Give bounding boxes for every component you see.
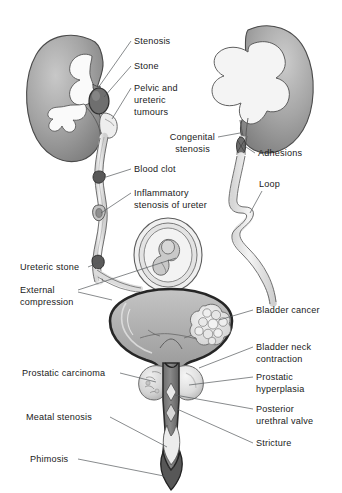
blood-clot-mass	[93, 171, 105, 183]
leader-congenital-stenosis	[218, 133, 240, 137]
leader-stone	[104, 66, 131, 97]
ureteric-stone-mass	[92, 255, 104, 269]
label-pelvic-ureteric-tumours-line3: tumours	[134, 107, 168, 117]
leader-external-compression-b	[78, 292, 112, 300]
gravid-uterus	[134, 218, 202, 292]
bladder	[110, 289, 232, 370]
urinary-obstruction-figure: StenosisStonePelvic andureterictumoursCo…	[0, 0, 342, 493]
label-external-compression-line2: compression	[20, 297, 74, 307]
kidney-stone	[89, 88, 109, 114]
right-ureter	[229, 136, 276, 304]
anatomy-illustration: StenosisStonePelvic andureterictumoursCo…	[0, 0, 342, 493]
label-blood-clot: Blood clot	[134, 164, 176, 174]
leader-loop	[250, 191, 262, 213]
label-meatal-stenosis: Meatal stenosis	[26, 412, 92, 422]
label-external-compression-line1: External	[20, 285, 55, 295]
label-posterior-urethral-valve-line2: urethral valve	[256, 416, 313, 426]
leader-meatal-stenosis	[110, 417, 167, 447]
label-phimosis: Phimosis	[30, 454, 69, 464]
label-inflammatory-stenosis-line1: Inflammatory	[134, 188, 189, 198]
label-posterior-urethral-valve-line1: Posterior	[256, 404, 294, 414]
label-ureteric-stone: Ureteric stone	[20, 262, 79, 272]
leader-blood-clot	[106, 169, 131, 177]
label-prostatic-carcinoma: Prostatic carcinoma	[22, 368, 106, 378]
label-congenital-stenosis-line2: stenosis	[175, 144, 210, 154]
urethra	[161, 363, 183, 490]
label-inflammatory-stenosis-line2: stenosis of ureter	[134, 200, 207, 210]
label-stone: Stone	[134, 61, 159, 71]
label-stricture: Stricture	[256, 438, 292, 448]
label-pelvic-ureteric-tumours-line1: Pelvic and	[134, 83, 178, 93]
label-bladder-neck-contraction-line1: Bladder neck	[256, 342, 312, 352]
label-pelvic-ureteric-tumours-line2: ureteric	[134, 95, 166, 105]
label-prostatic-hyperplasia-line1: Prostatic	[256, 372, 293, 382]
leader-phimosis	[78, 459, 169, 477]
label-congenital-stenosis-line1: Congenital	[170, 132, 215, 142]
label-prostatic-hyperplasia-line2: hyperplasia	[256, 384, 305, 394]
right-kidney	[212, 26, 313, 153]
label-bladder-neck-contraction-line2: contraction	[256, 354, 303, 364]
label-loop: Loop	[259, 179, 280, 189]
leader-stricture	[177, 409, 253, 443]
label-stenosis: Stenosis	[134, 36, 171, 46]
label-bladder-cancer: Bladder cancer	[256, 305, 320, 315]
leader-posterior-urethral-valve	[175, 395, 253, 409]
label-adhesions: Adhesions	[258, 148, 302, 158]
leader-pelvic-tumours	[112, 88, 131, 119]
left-ureter	[92, 137, 141, 292]
